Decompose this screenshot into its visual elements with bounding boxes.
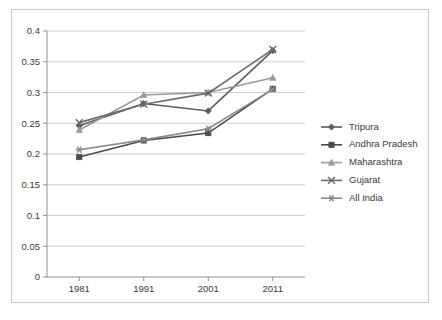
y-tick-label: 0.25: [22, 118, 41, 129]
y-tick-label: 0.15: [22, 179, 41, 190]
x-tick-label: 2001: [198, 283, 219, 294]
gridlines: [47, 31, 305, 246]
legend-item-all-india[interactable]: All India: [321, 192, 384, 203]
series-line: [79, 78, 273, 130]
series-markers: [76, 86, 276, 152]
legend-label: Tripura: [349, 121, 379, 132]
series-all-india: [76, 86, 276, 152]
y-tick-label: 0.4: [27, 25, 40, 36]
legend-item-tripura[interactable]: Tripura: [321, 121, 379, 132]
series-markers: [76, 46, 276, 126]
legend-marker: [328, 124, 334, 130]
series-line: [79, 49, 273, 122]
x-axis-tick-labels: 1981199120012011: [69, 283, 283, 294]
y-tick-label: 0.3: [27, 87, 40, 98]
y-tick-label: 0.1: [27, 210, 40, 221]
x-tick-label: 1991: [133, 283, 154, 294]
y-axis-tick-labels: 00.050.10.150.20.250.30.350.4: [22, 25, 41, 282]
line-chart: 00.050.10.150.20.250.30.350.4 1981199120…: [0, 0, 442, 320]
legend-marker: [328, 195, 335, 201]
series-maharashtra: [76, 74, 276, 132]
y-tick-label: 0.05: [22, 241, 41, 252]
y-tick-label: 0.2: [27, 148, 40, 159]
legend-item-andhra-pradesh[interactable]: Andhra Pradesh: [321, 138, 418, 149]
x-tick-label: 1981: [69, 283, 90, 294]
legend-item-maharashtra[interactable]: Maharashtra: [321, 156, 403, 167]
legend-item-gujarat[interactable]: Gujarat: [321, 174, 381, 185]
y-tick-label: 0.35: [22, 56, 41, 67]
data-series-group: [76, 46, 276, 160]
series-gujarat: [76, 46, 276, 126]
legend-label: Maharashtra: [349, 156, 403, 167]
legend-label: Andhra Pradesh: [349, 138, 418, 149]
chart-legend: TripuraAndhra PradeshMaharashtraGujaratA…: [321, 121, 418, 203]
x-tick-label: 2011: [263, 283, 283, 294]
y-tick-label: 0: [35, 271, 40, 282]
legend-label: All India: [349, 192, 384, 203]
series-tripura: [76, 48, 276, 129]
legend-label: Gujarat: [349, 174, 381, 185]
legend-marker: [329, 142, 334, 147]
chart-figure: 00.050.10.150.20.250.30.350.4 1981199120…: [0, 0, 442, 320]
